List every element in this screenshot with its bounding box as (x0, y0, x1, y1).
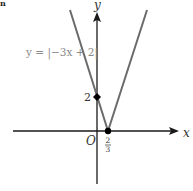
function-curve (70, 10, 147, 131)
graph: n x y y = |−3x + 2| 2 O 2 3 (0, 0, 193, 191)
corner-mark: n (0, 0, 6, 8)
y-intercept-point (93, 93, 101, 101)
root-numerator: 2 (106, 136, 111, 145)
x-axis-label: x (183, 126, 190, 140)
root-denominator: 3 (106, 145, 111, 154)
y-axis-label: y (93, 0, 101, 12)
function-label: y = |−3x + 2| (25, 46, 98, 60)
root-point (105, 128, 111, 134)
y-intercept-label: 2 (84, 91, 91, 104)
origin-label: O (86, 134, 96, 148)
